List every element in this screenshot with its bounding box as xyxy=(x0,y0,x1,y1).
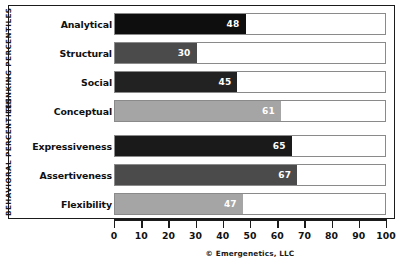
x-axis-tick xyxy=(168,219,169,228)
bar-assertiveness: 67 xyxy=(115,165,297,185)
copyright-note: © Emergenetics, LLC xyxy=(114,249,386,258)
bar-analytical: 48 xyxy=(115,14,246,34)
bar-track: 48 xyxy=(114,13,386,35)
bar-track: 61 xyxy=(114,100,386,122)
bar-value-label: 67 xyxy=(278,170,297,180)
x-axis-tick-label: 100 xyxy=(376,230,395,241)
x-axis-tick xyxy=(114,219,115,228)
x-axis: 0102030405060708090100 xyxy=(114,219,386,221)
bar-track: 30 xyxy=(114,42,386,64)
table-row: Structural30 xyxy=(8,41,395,65)
table-row: Social45 xyxy=(8,70,395,94)
table-row: Analytical48 xyxy=(8,12,395,36)
bar-track: 47 xyxy=(114,193,386,215)
x-axis-tick-label: 0 xyxy=(111,230,117,241)
bar-value-label: 47 xyxy=(224,199,243,209)
bar-track: 65 xyxy=(114,135,386,157)
table-row: Expressiveness65 xyxy=(8,134,395,158)
x-axis-tick-label: 80 xyxy=(325,230,338,241)
bar-flexibility: 47 xyxy=(115,194,243,214)
x-axis-tick xyxy=(332,219,333,228)
bar-value-label: 45 xyxy=(218,77,237,87)
bar-value-label: 48 xyxy=(227,19,246,29)
bar-rows: Analytical48Structural30Social45Conceptu… xyxy=(8,5,395,219)
x-axis-tick-label: 50 xyxy=(244,230,257,241)
category-label-structural: Structural xyxy=(26,48,112,59)
table-row: Assertiveness67 xyxy=(8,163,395,187)
bar-structural: 30 xyxy=(115,43,197,63)
x-axis-tick xyxy=(223,219,224,228)
bar-track: 45 xyxy=(114,71,386,93)
x-axis-tick xyxy=(304,219,305,228)
bar-track: 67 xyxy=(114,164,386,186)
table-row: Flexibility47 xyxy=(8,192,395,216)
x-axis-tick-label: 40 xyxy=(216,230,229,241)
category-label-analytical: Analytical xyxy=(26,19,112,30)
x-axis-tick xyxy=(250,219,251,228)
category-label-conceptual: Conceptual xyxy=(26,106,112,117)
bar-value-label: 65 xyxy=(273,141,292,151)
x-axis-tick-label: 20 xyxy=(162,230,175,241)
bar-conceptual: 61 xyxy=(115,101,281,121)
category-label-assertiveness: Assertiveness xyxy=(26,170,112,181)
bar-value-label: 61 xyxy=(262,106,281,116)
x-axis-tick-label: 30 xyxy=(189,230,202,241)
category-label-flexibility: Flexibility xyxy=(26,199,112,210)
table-row: Conceptual61 xyxy=(8,99,395,123)
x-axis-tick xyxy=(386,219,387,228)
x-axis-tick xyxy=(277,219,278,228)
x-axis-tick xyxy=(141,219,142,228)
x-axis-tick-label: 10 xyxy=(135,230,148,241)
bar-value-label: 30 xyxy=(178,48,197,58)
emergenetics-percentile-chart: THINKING PERCENTILES BEHAVIORAL PERCENTI… xyxy=(0,0,405,270)
category-label-expressiveness: Expressiveness xyxy=(26,141,112,152)
category-label-social: Social xyxy=(26,77,112,88)
x-axis-tick xyxy=(196,219,197,228)
x-axis-tick xyxy=(359,219,360,228)
x-axis-tick-label: 90 xyxy=(352,230,365,241)
x-axis-tick-label: 70 xyxy=(298,230,311,241)
x-axis-tick-label: 60 xyxy=(271,230,284,241)
bar-expressiveness: 65 xyxy=(115,136,292,156)
bar-social: 45 xyxy=(115,72,237,92)
